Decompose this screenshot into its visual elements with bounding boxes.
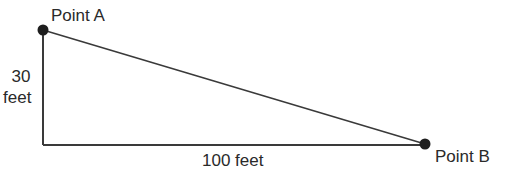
horizontal-length-label: 100 feet [202, 151, 263, 170]
point-a-label: Point A [51, 6, 105, 25]
vertical-length-unit: feet [3, 88, 31, 107]
point-b-label: Point B [435, 147, 490, 166]
hypotenuse [43, 30, 425, 144]
vertical-length-value: 30 [9, 67, 33, 86]
point-b-marker [420, 139, 431, 150]
point-a-marker [38, 25, 49, 36]
